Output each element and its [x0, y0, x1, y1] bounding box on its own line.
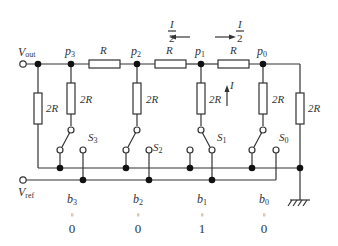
node-p3-label: p3 — [64, 44, 75, 59]
node-p0-label: p0 — [256, 44, 267, 59]
circuit-svg: Vout Vref p3 p2 p1 p0 R R R 2R 2R 2R 2R … — [0, 0, 338, 246]
resistor-r-label: R — [99, 44, 107, 56]
node-p2-label: p2 — [130, 44, 141, 59]
vout-label: Vout — [18, 45, 36, 59]
bit-b2-label: b2 — [133, 192, 143, 207]
half-current-left-num: I — [169, 18, 175, 30]
current-i-label: I — [229, 79, 235, 91]
bit-b1-value: 1 — [199, 221, 206, 236]
bit-b0-label: b0 — [259, 192, 269, 207]
half-current-left-den: 2 — [169, 32, 175, 44]
node-p1-label: p1 — [194, 44, 205, 59]
equals-sign: = — [198, 213, 206, 217]
resistor-2r-label: 2R — [308, 102, 321, 114]
resistor-2r-label: 2R — [46, 102, 59, 114]
equals-sign: = — [260, 213, 268, 217]
resistor-2r-label: 2R — [146, 93, 159, 105]
equals-sign: = — [134, 213, 142, 217]
bit-b1-label: b1 — [197, 192, 207, 207]
resistor-2r-label: 2R — [80, 93, 93, 105]
switch-s3-label: S3 — [88, 131, 98, 145]
bit-b0-value: 0 — [261, 221, 268, 236]
resistor-2r-label: 2R — [272, 93, 285, 105]
bit-b3-value: 0 — [69, 221, 76, 236]
half-current-right-den: 2 — [237, 32, 243, 44]
switch-s0-label: S0 — [279, 131, 289, 145]
resistor-2r-label: 2R — [209, 93, 222, 105]
bit-b3-label: b3 — [67, 192, 77, 207]
resistor-r-label: R — [165, 44, 173, 56]
half-current-right-num: I — [237, 18, 243, 30]
r2r-dac-circuit-diagram: Vout Vref p3 p2 p1 p0 R R R 2R 2R 2R 2R … — [0, 0, 338, 246]
vref-label: Vref — [18, 185, 35, 200]
equals-sign: = — [68, 213, 76, 217]
switch-s2-label: S2 — [153, 141, 163, 155]
switch-s1-label: S1 — [217, 131, 227, 145]
bit-b2-value: 0 — [135, 221, 142, 236]
resistor-r-label: R — [229, 44, 237, 56]
